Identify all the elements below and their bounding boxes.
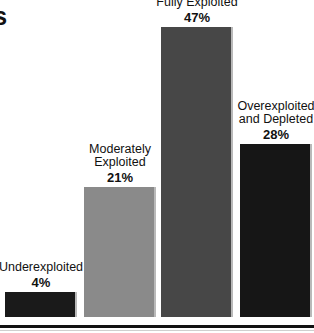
bar-label: Moderately Exploited 21%	[89, 143, 151, 185]
bar-rect	[161, 27, 233, 317]
bar-value-label: 47%	[156, 11, 237, 25]
bar-category-label-line2: and Depleted	[237, 113, 314, 127]
bar-value-label: 28%	[237, 128, 314, 142]
bar-label: Overexploited and Depleted 28%	[237, 100, 314, 142]
bar-rect	[240, 144, 312, 317]
bar-category-label: Fully Exploited	[156, 0, 237, 10]
bar-category-label: Moderately	[89, 143, 151, 157]
bar-category-label: Underexploited	[0, 261, 83, 275]
bar-category-label: Overexploited	[237, 100, 314, 114]
bar-label: Underexploited 4%	[0, 261, 83, 289]
bar-label: Fully Exploited 47%	[156, 0, 237, 24]
baseline-shadow	[0, 330, 314, 331]
plot-area: Underexploited 4% Moderately Exploited 2…	[0, 0, 314, 325]
bar-value-label: 4%	[0, 276, 83, 290]
bar-value-label: 21%	[89, 171, 151, 185]
bar-chart-figure: cks Underexploited 4% Moderately Exploit…	[0, 0, 314, 333]
bar-rect	[5, 292, 77, 317]
bar-rect	[84, 187, 156, 317]
chart-baseline	[0, 325, 314, 328]
bar-category-label-line2: Exploited	[89, 156, 151, 170]
